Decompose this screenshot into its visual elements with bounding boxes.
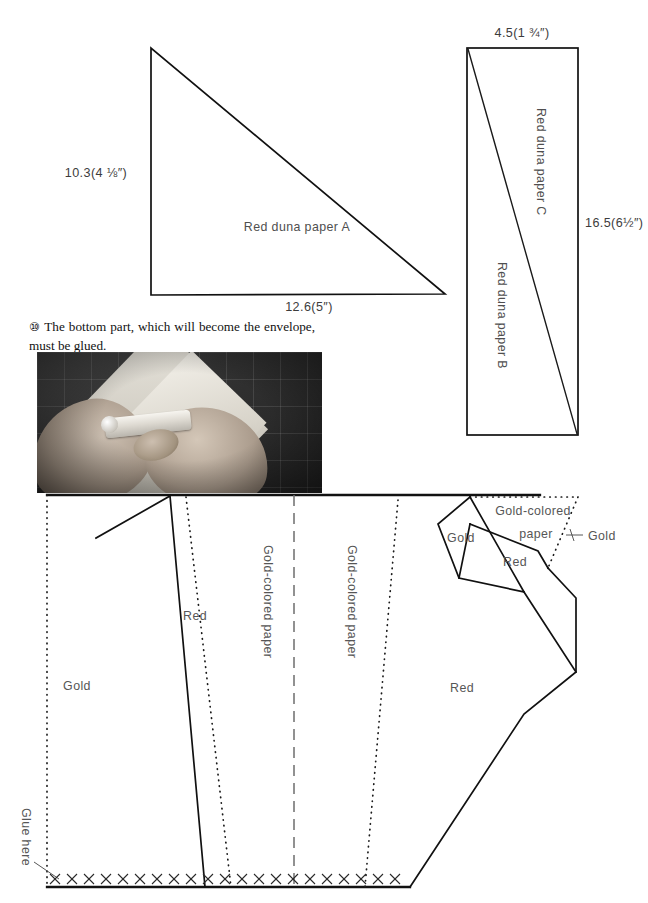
zone-label-red-center: Red xyxy=(450,681,474,695)
glue-x-mark xyxy=(118,874,128,884)
glue-x-mark xyxy=(169,874,179,884)
page-root: Red duna paper A 10.3(4 ⅛″) 12.6(5″) 4.5… xyxy=(0,0,648,903)
glue-x-mark xyxy=(373,874,383,884)
glue-x-mark xyxy=(67,874,77,884)
zone-label-gold-colored-line2: paper xyxy=(519,527,553,541)
glue-x-mark xyxy=(84,874,94,884)
zone-label-gold-left: Gold xyxy=(63,679,91,693)
inner-right-fold-line xyxy=(365,500,398,887)
glue-x-mark xyxy=(322,874,332,884)
zone-label-gold-paper-left: Gold-colored paper xyxy=(261,545,275,658)
zone-label-red-facet: Red xyxy=(503,555,527,569)
glue-x-mark xyxy=(220,874,230,884)
zone-label-gold-colored-line1: Gold-colored xyxy=(495,504,571,518)
glue-x-mark xyxy=(152,874,162,884)
glue-x-mark xyxy=(254,874,264,884)
glue-x-marks xyxy=(50,874,400,884)
glue-x-mark xyxy=(135,874,145,884)
zone-label-gold-paper-right: Gold-colored paper xyxy=(345,545,359,658)
left-panel-cut-line xyxy=(96,496,205,887)
glue-x-mark xyxy=(390,874,400,884)
glue-x-mark xyxy=(271,874,281,884)
zone-label-gold-facet: Gold xyxy=(447,531,475,545)
glue-x-mark xyxy=(237,874,247,884)
glue-x-mark xyxy=(186,874,196,884)
glue-x-mark xyxy=(101,874,111,884)
zone-label-gold-strip: Gold xyxy=(588,529,616,543)
inner-left-fold-line xyxy=(186,497,231,887)
glue-here-label: Glue here xyxy=(19,808,33,866)
zone-label-red-left: Red xyxy=(183,609,207,623)
right-red-cut-line xyxy=(410,497,576,887)
layout-diagram-layer: Gold Red Gold-colored paper Gold-colored… xyxy=(0,0,648,903)
red-facet-right-edge xyxy=(548,568,576,672)
glue-x-mark xyxy=(305,874,315,884)
glue-x-mark xyxy=(339,874,349,884)
glue-x-mark xyxy=(356,874,366,884)
glue-x-mark xyxy=(288,874,298,884)
